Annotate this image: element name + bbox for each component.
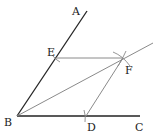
label-B: B	[4, 116, 12, 129]
geometry-diagram: A E F B D C	[0, 0, 157, 134]
label-F: F	[125, 64, 133, 77]
segment-DF	[86, 58, 123, 116]
label-E: E	[47, 46, 55, 59]
label-D: D	[87, 121, 96, 134]
segment-BA	[17, 11, 87, 116]
bisector-ray-BF	[17, 43, 153, 116]
label-C: C	[135, 121, 143, 134]
label-A: A	[71, 5, 81, 18]
